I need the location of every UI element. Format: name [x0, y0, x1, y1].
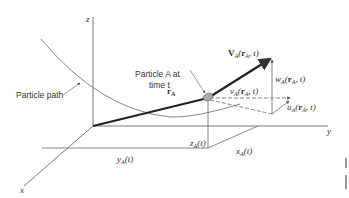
particle-a-leader [190, 70, 205, 93]
x-coordinate-line [208, 126, 258, 148]
particle-velocity-diagram: z y x Particle path Particle A at time t… [0, 0, 349, 198]
particle-path-leader [63, 83, 80, 95]
edge-mark [345, 158, 347, 168]
position-vector [93, 98, 208, 126]
w-component-label: wA(rA, t) [275, 74, 305, 85]
v-component-label: vA(rA, t) [230, 86, 258, 97]
particle-a-label-line1: Particle A at [135, 69, 181, 79]
projection-dashed [210, 100, 272, 114]
x-axis [24, 126, 93, 186]
u-component-label: uA(rA, t) [287, 102, 316, 113]
z-axis-label: z [85, 14, 90, 24]
z-coordinate-label: zA(t) [189, 138, 206, 149]
x-coordinate-label: xA(t) [235, 146, 252, 157]
particle-path-label: Particle path [16, 90, 64, 100]
y-axis-label: y [326, 126, 331, 136]
x-axis-label: x [19, 185, 24, 195]
y-coordinate-label: yA(t) [116, 154, 133, 165]
edge-mark [345, 175, 347, 189]
position-vector-label: rA [167, 86, 176, 97]
velocity-vector-label: VA(rA, t) [228, 48, 259, 59]
